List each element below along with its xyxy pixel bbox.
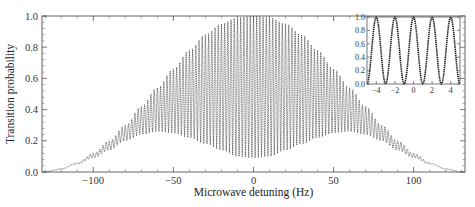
y-tick-label: 0.0 [25, 167, 38, 178]
y-tick-label: 1.0 [25, 11, 38, 22]
y-axis-title: Transition probability [4, 44, 17, 144]
y-tick-label: 0.2 [25, 135, 38, 146]
inset-x-tick-label: 2 [430, 86, 434, 95]
x-tick-label: 50 [328, 175, 339, 186]
inset-y-tick-label: 0.2 [355, 66, 365, 75]
x-tick-label: 100 [406, 175, 422, 186]
inset-x-tick-label: 4 [449, 86, 453, 95]
inset-y-tick-label: 1.0 [355, 13, 365, 22]
x-axis-title: Microwave detuning (Hz) [194, 186, 314, 199]
inset-y-tick-label: 0.8 [355, 26, 365, 35]
figure: 0.00.20.40.60.81.0 −100−50050100 Microwa… [0, 0, 475, 207]
inset-y-tick-label: 0.0 [355, 80, 365, 89]
inset-x-tick-label: −2 [391, 86, 400, 95]
inset-x-tick-label: −4 [372, 86, 381, 95]
inset-y-tick-label: 0.6 [355, 40, 365, 49]
inset-plot: 0.00.20.40.60.81.0 −4−2024 [355, 13, 460, 95]
y-tick-label: 0.6 [25, 73, 38, 84]
x-tick-label: −100 [82, 175, 104, 186]
y-tick-label: 0.8 [25, 42, 38, 53]
y-tick-label: 0.4 [25, 104, 39, 115]
inset-x-tick-label: 0 [412, 86, 416, 95]
x-tick-label: −50 [165, 175, 181, 186]
inset-y-tick-label: 0.4 [355, 53, 365, 62]
x-tick-label: 0 [251, 175, 256, 186]
